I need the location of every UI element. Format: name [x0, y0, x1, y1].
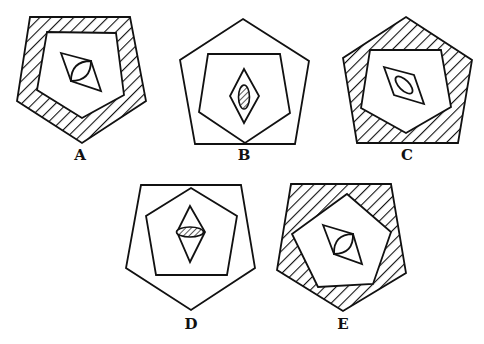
option-label-b: B [238, 146, 251, 164]
hatched-ellipse [177, 227, 204, 237]
option-b[interactable]: B [180, 19, 309, 164]
option-label-e: E [337, 315, 348, 333]
option-e[interactable]: E [277, 184, 406, 333]
option-label-a: A [73, 146, 86, 164]
option-a[interactable]: A [17, 17, 146, 164]
option-d[interactable]: D [126, 185, 255, 333]
option-label-c: C [401, 146, 413, 164]
hatched-ellipse [239, 85, 250, 109]
option-c[interactable]: C [343, 17, 472, 164]
option-label-d: D [184, 315, 197, 333]
outer-pentagon [180, 19, 309, 144]
figure-options-diagram: A B C D [0, 0, 484, 344]
diagram-canvas: A B C D [0, 0, 484, 344]
outer-pentagon [126, 185, 255, 310]
